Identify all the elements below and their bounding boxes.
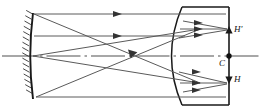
ray-cross-down xyxy=(34,14,200,83)
ray-diagram-figure: H' H C xyxy=(0,0,262,108)
arrow-mid-parallel xyxy=(113,33,122,39)
arrow-conv-upper-c xyxy=(194,33,203,38)
concave-mirror xyxy=(22,10,33,99)
ray-conv-lower-c xyxy=(183,84,227,92)
h-prime-label: H' xyxy=(233,24,243,34)
arrow-conv-lower-c xyxy=(192,88,201,93)
arrow-conv-lower-a xyxy=(192,69,201,75)
ray-conv-upper-a xyxy=(183,21,227,29)
ray-vertex-to-lower xyxy=(33,56,200,83)
ray-vertex-to-upper xyxy=(33,29,200,56)
c-label: C xyxy=(219,58,226,68)
ray-diagram-canvas: H' H C xyxy=(0,0,262,108)
arrow-conv-upper-b xyxy=(194,26,203,32)
arrow-upper-parallel xyxy=(113,11,122,17)
h-label: H xyxy=(233,74,241,84)
center-dot-icon xyxy=(226,53,231,58)
principal-point-h: H xyxy=(225,74,241,84)
principal-point-h-prime: H' xyxy=(225,24,243,34)
